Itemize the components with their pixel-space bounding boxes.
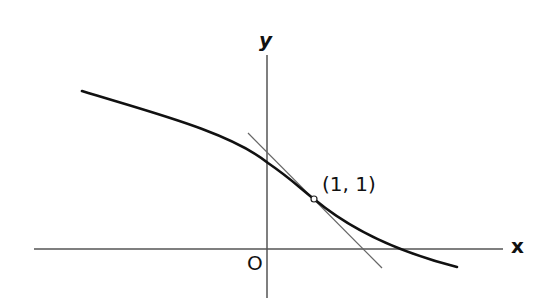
decreasing-curve — [82, 91, 457, 267]
origin-label: O — [247, 253, 263, 273]
tangent-point — [311, 196, 317, 202]
x-axis-label: x — [511, 236, 524, 256]
y-axis-label: y — [259, 30, 272, 50]
point-label: (1, 1) — [322, 174, 376, 194]
diagram-canvas: y x O (1, 1) — [0, 0, 542, 307]
